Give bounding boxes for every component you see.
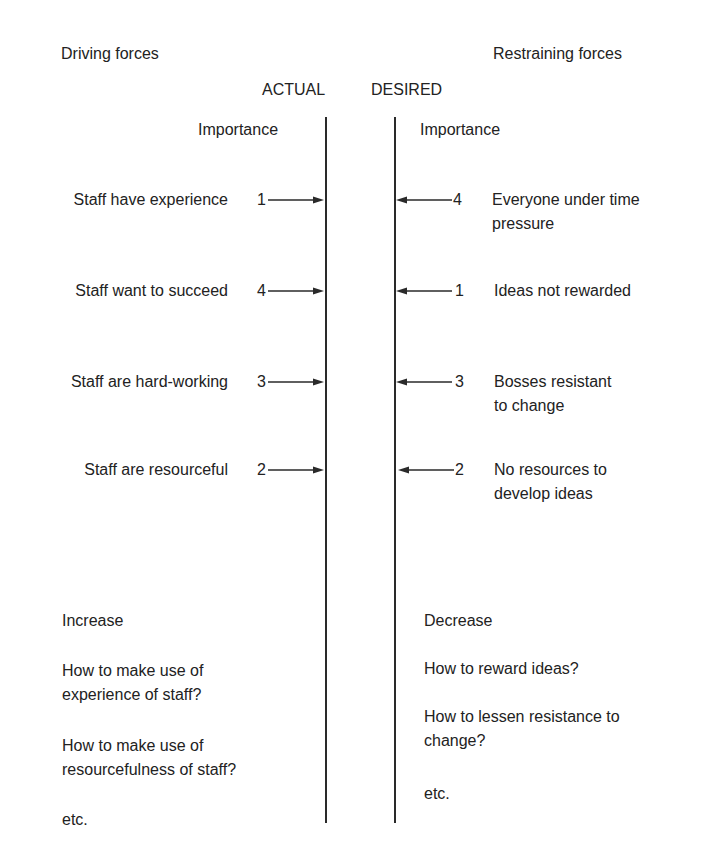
driving-force-label: Staff are hard-working	[71, 372, 228, 392]
right-arrow-icon	[268, 377, 325, 387]
restraining-force-label-cont: develop ideas	[494, 484, 593, 504]
restraining-force-label: Everyone under time	[492, 190, 640, 210]
driving-force-label: Staff are resourceful	[84, 460, 228, 480]
restraining-forces-title: Restraining forces	[493, 44, 622, 64]
driving-force-importance: 4	[257, 281, 266, 301]
restraining-force-importance: 4	[453, 190, 462, 210]
increase-item: How to make use of	[62, 661, 203, 681]
desired-label: DESIRED	[371, 80, 442, 100]
left-arrow-icon	[395, 286, 452, 296]
left-arrow-icon	[397, 465, 454, 475]
decrease-heading: Decrease	[424, 611, 492, 631]
driving-force-importance: 2	[257, 460, 266, 480]
importance-right-label: Importance	[420, 120, 500, 140]
increase-item-cont: experience of staff?	[62, 685, 201, 705]
driving-force-importance: 1	[257, 190, 266, 210]
restraining-force-label: Bosses resistant	[494, 372, 611, 392]
left-arrow-icon	[395, 377, 452, 387]
driving-forces-title: Driving forces	[61, 44, 159, 64]
actual-state-line	[325, 117, 327, 823]
restraining-force-label: Ideas not rewarded	[494, 281, 631, 301]
driving-force-label: Staff have experience	[74, 190, 228, 210]
increase-heading: Increase	[62, 611, 123, 631]
right-arrow-icon	[268, 286, 325, 296]
actual-label: ACTUAL	[262, 80, 325, 100]
driving-force-label: Staff want to succeed	[75, 281, 228, 301]
decrease-item-cont: change?	[424, 731, 485, 751]
restraining-force-label: No resources to	[494, 460, 607, 480]
increase-item-cont: resourcefulness of staff?	[62, 760, 236, 780]
restraining-force-label-cont: pressure	[492, 214, 554, 234]
importance-left-label: Importance	[198, 120, 278, 140]
restraining-force-importance: 3	[455, 372, 464, 392]
right-arrow-icon	[268, 465, 325, 475]
right-arrow-icon	[268, 195, 325, 205]
desired-state-line	[394, 117, 396, 823]
decrease-item: How to lessen resistance to	[424, 707, 620, 727]
left-arrow-icon	[395, 195, 452, 205]
decrease-item: How to reward ideas?	[424, 659, 579, 679]
driving-force-importance: 3	[257, 372, 266, 392]
restraining-force-importance: 1	[455, 281, 464, 301]
restraining-force-label-cont: to change	[494, 396, 564, 416]
decrease-etc: etc.	[424, 784, 450, 804]
increase-item: How to make use of	[62, 736, 203, 756]
increase-etc: etc.	[62, 810, 88, 830]
restraining-force-importance: 2	[455, 460, 464, 480]
